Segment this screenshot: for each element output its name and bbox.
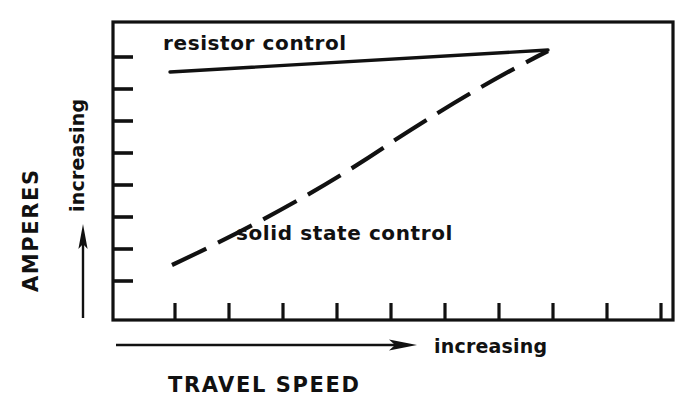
y-axis-title: AMPERES <box>19 168 43 292</box>
x-axis-right-arrow-icon <box>116 340 417 351</box>
y-axis-ticks <box>113 57 133 281</box>
chart-svg: resistor control solid state control AMP… <box>0 0 692 406</box>
y-axis-up-arrow-icon <box>78 224 87 318</box>
x-axis-direction-label: increasing <box>434 335 547 357</box>
figure-container: resistor control solid state control AMP… <box>0 0 692 406</box>
plot-frame <box>113 22 673 320</box>
x-axis-ticks <box>175 303 661 320</box>
annotation-resistor-control: resistor control <box>163 31 347 55</box>
annotation-solid-state-control: solid state control <box>236 221 453 245</box>
y-axis-direction-label: increasing <box>66 99 88 212</box>
x-axis-title: TRAVEL SPEED <box>168 373 360 397</box>
